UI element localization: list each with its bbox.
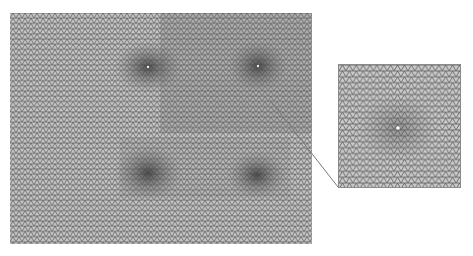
center-marker-icon — [396, 126, 400, 130]
inset-mesh-graphic — [339, 65, 460, 187]
main-mesh-graphic — [10, 13, 312, 244]
main-mesh-panel — [10, 13, 312, 244]
inset-zoom-panel — [338, 64, 461, 188]
